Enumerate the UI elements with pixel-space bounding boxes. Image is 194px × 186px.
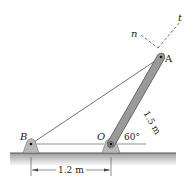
label-A: A (164, 53, 173, 64)
pin-A (160, 56, 163, 59)
label-B: B (19, 131, 27, 142)
label-t: t (178, 12, 183, 23)
label-length: 1.5 m (141, 109, 163, 137)
label-O: O (97, 131, 105, 142)
ground (10, 153, 176, 166)
mechanics-diagram: A B O n t 60° 1.2 m 1.5 m (0, 0, 194, 186)
cable-BA (31, 57, 161, 144)
label-angle: 60° (124, 132, 140, 142)
t-axis (158, 22, 180, 48)
n-axis (141, 35, 158, 48)
label-distance: 1.2 m (58, 165, 84, 175)
pin-O-center (110, 143, 112, 145)
pin-B (30, 143, 33, 146)
label-n: n (131, 28, 137, 39)
